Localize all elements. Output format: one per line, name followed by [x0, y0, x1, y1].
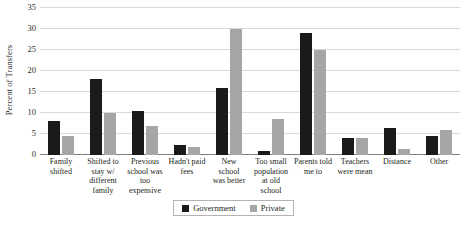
bar-private — [188, 147, 200, 155]
x-tick-label-line: stay w/ — [83, 167, 123, 177]
x-tick-label: Shifted tostay w/differentfamily — [82, 157, 124, 195]
x-tick-label-line: Hadn't paid — [167, 157, 207, 167]
y-tick-label: 5 — [32, 129, 36, 138]
x-tick-label-line: me to — [293, 167, 333, 177]
bar-chart: Percent of Transfers 05101520253035 Fami… — [0, 0, 467, 232]
bar-government — [48, 121, 60, 155]
y-tick-label: 35 — [28, 3, 37, 12]
bar-private — [272, 119, 284, 155]
bar-private — [314, 50, 326, 155]
x-tick-label-line: at old — [251, 176, 291, 186]
x-tick-label-line: New — [209, 157, 249, 167]
bar-government — [90, 79, 102, 155]
bar-private — [146, 126, 158, 155]
x-tick-label: Distance — [376, 157, 418, 195]
x-tick-label: Familyshifted — [40, 157, 82, 195]
legend-label: Government — [193, 203, 236, 213]
bar-private — [440, 130, 452, 155]
legend-item: Government — [182, 203, 236, 213]
bar-government — [426, 136, 438, 155]
y-tick-label: 30 — [28, 24, 37, 33]
x-tick-label-line: Parents told — [293, 157, 333, 167]
bar-government — [384, 128, 396, 155]
x-tick-label-line: Other — [419, 157, 459, 167]
bar-group — [334, 8, 376, 155]
bar-government — [342, 138, 354, 155]
x-tick-label-line: school was — [125, 167, 165, 177]
x-tick-label: Newschoolwas better — [208, 157, 250, 195]
legend: GovernmentPrivate — [0, 200, 467, 216]
x-tick-label-line: was better — [209, 176, 249, 186]
x-tick-label-line: population — [251, 167, 291, 177]
bar-group — [376, 8, 418, 155]
x-tick-label-line: shifted — [41, 167, 81, 177]
bar-group — [40, 8, 82, 155]
bar-government — [174, 145, 186, 156]
x-tick-label-line: school — [251, 186, 291, 196]
y-axis-title-label: Percent of Transfers — [4, 45, 14, 115]
x-tick-label-line: Family — [41, 157, 81, 167]
x-tick-label-line: family — [83, 186, 123, 196]
y-axis-title: Percent of Transfers — [0, 0, 18, 160]
bar-group — [124, 8, 166, 155]
bar-government — [132, 111, 144, 155]
legend-swatch-gov — [182, 205, 189, 212]
bar-private — [230, 29, 242, 155]
bar-group — [292, 8, 334, 155]
x-tick-label-line: school — [209, 167, 249, 177]
x-tick-label: Parents toldme to — [292, 157, 334, 195]
bar-government — [216, 88, 228, 155]
x-tick-label-line: Too small — [251, 157, 291, 167]
x-tick-label-line: Teachers — [335, 157, 375, 167]
bar-private — [356, 138, 368, 155]
x-tick-label: Too smallpopulationat oldschool — [250, 157, 292, 195]
x-axis-labels: FamilyshiftedShifted tostay w/differentf… — [40, 157, 460, 195]
bar-private — [104, 113, 116, 155]
x-tick-label-line: expensive — [125, 186, 165, 196]
legend-swatch-priv — [250, 205, 257, 212]
y-tick-label: 0 — [32, 150, 36, 159]
bar-government — [300, 33, 312, 155]
bar-group — [250, 8, 292, 155]
bars-layer — [40, 8, 460, 155]
x-tick-label: Other — [418, 157, 460, 195]
x-tick-label: Previousschool wastooexpensive — [124, 157, 166, 195]
x-tick-label-line: Previous — [125, 157, 165, 167]
bar-private — [62, 136, 74, 155]
x-tick-label-line: too — [125, 176, 165, 186]
bar-group — [82, 8, 124, 155]
bar-group — [208, 8, 250, 155]
x-tick-label-line: were mean — [335, 167, 375, 177]
x-tick-label-line: Distance — [377, 157, 417, 167]
x-tick-label-line: Shifted to — [83, 157, 123, 167]
legend-label: Private — [261, 203, 285, 213]
plot-area: 05101520253035 — [40, 8, 460, 155]
y-tick-label: 10 — [28, 108, 37, 117]
bar-group — [418, 8, 460, 155]
x-tick-label-line: fees — [167, 167, 207, 177]
bar-private — [398, 149, 410, 155]
bar-group — [166, 8, 208, 155]
bar-government — [258, 151, 270, 155]
y-tick-label: 20 — [28, 66, 37, 75]
legend-item: Private — [250, 203, 285, 213]
x-tick-label-line: different — [83, 176, 123, 186]
y-tick-label: 25 — [28, 45, 37, 54]
legend-box: GovernmentPrivate — [173, 200, 294, 216]
x-tick-label: Hadn't paidfees — [166, 157, 208, 195]
y-tick-label: 15 — [28, 87, 37, 96]
x-tick-label: Teacherswere mean — [334, 157, 376, 195]
